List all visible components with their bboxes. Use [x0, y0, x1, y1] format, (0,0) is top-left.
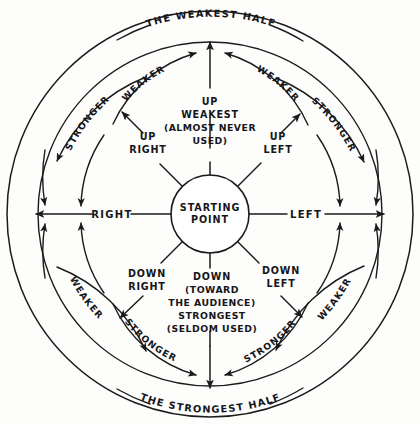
direction-up-left-line1: UP: [270, 131, 286, 142]
spoke-up-right-arrow: [122, 112, 143, 133]
direction-down-line3: THE AUDIENCE): [168, 297, 255, 308]
top-half-label: THE WEAKEST HALF: [145, 8, 278, 30]
arc-outer-right-upper: [376, 150, 378, 205]
direction-up-line1: UP: [202, 96, 218, 107]
arc-outer-left-lower: [43, 224, 45, 278]
arc-label-lower-left-outer: WEAKER: [68, 274, 106, 321]
direction-down-line4: STRONGEST: [178, 310, 246, 321]
direction-up-line2: WEAKEST: [181, 109, 239, 120]
arc-outer-right-lower: [376, 224, 378, 278]
direction-down-left-line2: LEFT: [267, 278, 296, 289]
direction-down-right-line2: RIGHT: [128, 281, 165, 292]
arc-outer-left-upper: [43, 150, 45, 205]
leader-top-left: [117, 25, 150, 40]
axis-label-left: LEFT: [290, 209, 322, 220]
axis-label-right: RIGHT: [91, 209, 132, 220]
arc-label-upper-right-inner: WEAKER: [255, 63, 302, 104]
arc-label-upper-left-inner: WEAKER: [119, 63, 166, 103]
direction-up-line3: (ALMOST NEVER: [164, 122, 256, 133]
direction-down-line1: DOWN: [193, 271, 231, 282]
direction-up-right-line1: UP: [140, 131, 156, 142]
leader-top-right: [270, 25, 303, 41]
direction-down-right-line1: DOWN: [128, 268, 166, 279]
arc-inner-right-upper: [317, 135, 340, 206]
spoke-down-left-inner: [238, 242, 259, 263]
direction-down-line5: (SELDOM USED): [167, 323, 257, 334]
spoke-up-right-inner: [160, 164, 182, 186]
direction-up-line4: USED): [192, 135, 227, 146]
arc-inner-left-lower: [81, 223, 104, 293]
stage-movement-diagram: STARTING POINT THE WEAKEST HALF THE STRO…: [0, 0, 420, 424]
arc-inner-left-upper: [81, 135, 104, 206]
direction-up-right-line2: RIGHT: [129, 144, 166, 155]
hub-label-line1: STARTING: [180, 202, 240, 213]
direction-up-left-line2: LEFT: [264, 144, 293, 155]
direction-down-line2: (TOWARD: [185, 284, 239, 295]
wheel-graphic: STARTING POINT THE WEAKEST HALF THE STRO…: [0, 0, 420, 424]
direction-down-left-line1: DOWN: [262, 265, 300, 276]
arc-inner-right-lower: [317, 223, 340, 293]
arc-label-upper-right-outer: STRONGER: [310, 95, 359, 154]
arc-label-upper-left-outer: STRONGER: [63, 93, 112, 152]
hub-label-line2: POINT: [191, 214, 229, 225]
spoke-up-left-inner: [238, 163, 261, 186]
spoke-down-right-inner: [161, 242, 182, 263]
